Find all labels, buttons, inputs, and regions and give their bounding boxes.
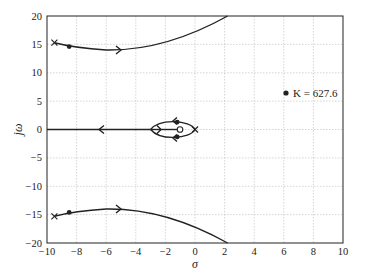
y-tick: 15 xyxy=(32,39,43,50)
gain-annotation: K = 627.6 xyxy=(283,87,337,99)
y-tick: 20 xyxy=(32,11,43,22)
y-tick: −15 xyxy=(26,209,42,220)
y-tick: 0 xyxy=(37,124,42,135)
x-axis-label: σ xyxy=(192,257,199,271)
dot-marker-icon xyxy=(283,90,288,95)
x-tick-labels: −10 −8 −6 −4 −2 0 2 4 6 8 10 xyxy=(39,246,348,257)
y-tick: 10 xyxy=(32,67,43,78)
x-tick: 8 xyxy=(311,246,316,257)
y-axis-label: jω xyxy=(11,124,25,138)
x-tick: 10 xyxy=(338,246,349,257)
x-tick: −2 xyxy=(160,246,171,257)
y-tick-labels: 20 15 10 5 0 −5 −10 −15 −20 xyxy=(26,11,42,249)
x-tick: −8 xyxy=(71,246,82,257)
upper-branch xyxy=(54,16,227,50)
x-tick: −6 xyxy=(101,246,112,257)
x-tick: 4 xyxy=(252,246,258,257)
x-tick: 2 xyxy=(222,246,227,257)
lower-branch xyxy=(54,209,227,243)
zero-circle-icon xyxy=(177,127,183,133)
y-tick: 5 xyxy=(37,96,42,107)
gain-label: K = 627.6 xyxy=(293,87,338,99)
x-tick: −10 xyxy=(39,246,55,257)
x-tick: 0 xyxy=(192,246,197,257)
y-tick: −5 xyxy=(31,152,42,163)
x-tick: −4 xyxy=(130,246,142,257)
root-locus-chart: 20 15 10 5 0 −5 −10 −15 −20 −10 −8 −6 −4… xyxy=(0,0,365,275)
x-tick: 6 xyxy=(281,246,286,257)
y-tick: −10 xyxy=(26,181,42,192)
